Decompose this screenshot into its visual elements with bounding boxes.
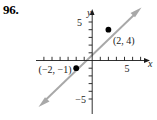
point-label-2-4: (2, 4) — [113, 35, 135, 47]
data-point-neg2-neg1 — [73, 65, 79, 71]
y-tick-label-neg5: −5 — [75, 94, 86, 105]
data-point-2-4 — [106, 27, 112, 33]
figure-page: 96. — [0, 0, 157, 120]
x-tick-label-5: 5 — [125, 63, 130, 74]
y-tick-label-5: 5 — [77, 17, 82, 28]
coordinate-plane-svg: y x 5 −5 5 (2, 4) (−2, −1) — [0, 0, 157, 120]
coordinate-graph-figure: y x 5 −5 5 (2, 4) (−2, −1) — [0, 0, 157, 120]
y-axis-label: y — [86, 7, 92, 18]
point-label-neg2-neg1: (−2, −1) — [39, 64, 72, 76]
line-segment — [45, 14, 136, 102]
y-axis — [89, 9, 95, 114]
x-axis — [36, 57, 150, 63]
x-axis-label: x — [147, 58, 153, 69]
